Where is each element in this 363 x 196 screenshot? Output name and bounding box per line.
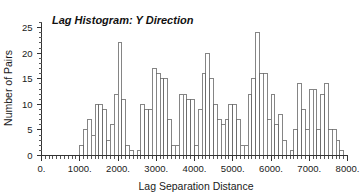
- y-tick-label: 25: [22, 22, 33, 33]
- histogram-bar: [328, 130, 332, 156]
- histogram-bar: [237, 120, 241, 156]
- y-tick-label: 0: [27, 150, 32, 161]
- histogram-bar: [179, 94, 183, 155]
- x-tick-label: 7000.: [297, 163, 321, 174]
- histogram-bar: [152, 69, 156, 156]
- x-tick-label: 5000.: [221, 163, 245, 174]
- histogram-bar: [129, 150, 133, 155]
- histogram-bar: [233, 104, 237, 155]
- histogram-bar: [217, 120, 221, 156]
- histogram-bar: [248, 94, 252, 155]
- histogram-bar: [118, 43, 122, 156]
- histogram-bar: [126, 145, 130, 155]
- histogram-bar: [164, 79, 168, 156]
- histogram-bar: [107, 140, 111, 155]
- histogram-bar: [149, 109, 153, 155]
- histogram-bar: [321, 94, 325, 155]
- histogram-bar: [271, 94, 275, 155]
- histogram-bar: [137, 150, 141, 155]
- histogram-bar: [340, 150, 344, 155]
- x-tick-label: 2000.: [106, 163, 130, 174]
- histogram-bar: [122, 99, 126, 155]
- histogram-bar: [110, 125, 114, 156]
- histogram-bar: [229, 104, 233, 155]
- histogram-bar: [282, 140, 286, 155]
- histogram-bar: [95, 104, 99, 155]
- histogram-bar: [91, 135, 95, 155]
- histogram-bar: [160, 79, 164, 156]
- histogram-bar: [325, 84, 329, 156]
- y-tick-label: 5: [27, 124, 32, 135]
- x-axis-title: Lag Separation Distance: [139, 180, 254, 192]
- histogram-bar: [168, 120, 172, 156]
- y-axis-ticks: [37, 23, 42, 156]
- x-tick-label: 6000.: [259, 163, 283, 174]
- histogram-bar: [336, 140, 340, 155]
- histogram-bar: [84, 130, 88, 156]
- histogram-bar: [214, 104, 218, 155]
- histogram-bar: [279, 115, 283, 156]
- histogram-bar: [240, 145, 244, 155]
- histogram-bar: [332, 130, 336, 156]
- y-axis-title: Number of Pairs: [2, 50, 14, 126]
- histogram-bar: [141, 104, 145, 155]
- histogram-bar: [267, 120, 271, 156]
- y-tick-label: 20: [22, 48, 33, 59]
- histogram-bar: [244, 145, 248, 155]
- x-tick-label: 4000.: [183, 163, 207, 174]
- histogram-bar: [87, 120, 91, 156]
- histogram-bar: [175, 145, 179, 155]
- y-axis-tick-labels: 0510152025: [22, 22, 33, 161]
- histogram-bar: [313, 89, 317, 156]
- histogram-bar: [225, 120, 229, 156]
- x-tick-label: 0.: [38, 163, 46, 174]
- histogram-bar: [80, 145, 84, 155]
- histogram-bar: [202, 74, 206, 156]
- histogram-bar: [156, 74, 160, 156]
- histogram-bar: [191, 99, 195, 155]
- y-tick-label: 15: [22, 73, 33, 84]
- histogram-bar: [172, 145, 176, 155]
- histogram-bar: [305, 130, 309, 156]
- histogram-bar: [103, 109, 107, 155]
- x-axis-tick-labels: 0.1000.2000.3000.4000.5000.6000.7000.800…: [38, 163, 360, 174]
- histogram-bar: [206, 53, 210, 155]
- histogram-bar: [198, 109, 202, 155]
- histogram-bar: [275, 125, 279, 156]
- histogram-bar: [256, 33, 260, 156]
- x-axis-ticks: [42, 156, 348, 161]
- x-tick-label: 8000.: [336, 163, 360, 174]
- histogram-bar: [99, 104, 103, 155]
- histogram-bar: [263, 74, 267, 156]
- chart-title: Lag Histogram: Y Direction: [52, 14, 194, 26]
- histogram-bar: [298, 84, 302, 156]
- x-tick-label: 3000.: [144, 163, 168, 174]
- x-tick-label: 1000.: [68, 163, 92, 174]
- histogram-bar: [210, 79, 214, 156]
- histogram-bar: [195, 145, 199, 155]
- histogram-bar: [252, 79, 256, 156]
- histogram-bars: [80, 33, 344, 156]
- histogram-bar: [183, 94, 187, 155]
- lag-histogram-chart: 0.1000.2000.3000.4000.5000.6000.7000.800…: [0, 0, 363, 196]
- chart-canvas: 0.1000.2000.3000.4000.5000.6000.7000.800…: [0, 0, 363, 196]
- histogram-bar: [294, 130, 298, 156]
- histogram-bar: [302, 109, 306, 155]
- histogram-bar: [145, 109, 149, 155]
- y-tick-label: 10: [22, 99, 33, 110]
- histogram-bar: [114, 94, 118, 155]
- histogram-bar: [260, 74, 264, 156]
- histogram-bar: [221, 125, 225, 156]
- histogram-bar: [290, 150, 294, 155]
- histogram-bar: [309, 89, 313, 156]
- histogram-bar: [187, 99, 191, 155]
- histogram-bar: [317, 130, 321, 156]
